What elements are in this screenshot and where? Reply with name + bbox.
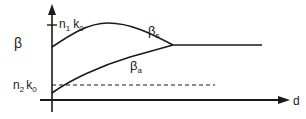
x-axis-arrow-icon bbox=[278, 96, 290, 104]
lower-tick-label: n2k0 bbox=[13, 78, 37, 94]
y-axis-arrow-icon bbox=[48, 4, 56, 15]
x-axis-label: d bbox=[293, 94, 300, 108]
dispersion-diagram: β d n1k0 n2k0 βs βa bbox=[0, 0, 306, 119]
y-axis-label: β bbox=[14, 35, 22, 51]
curve-antisymmetric bbox=[52, 45, 173, 93]
curve-symmetric-label: βs bbox=[148, 23, 159, 40]
curve-antisymmetric-label: βa bbox=[130, 58, 142, 75]
upper-tick-label: n1k0 bbox=[59, 17, 84, 33]
